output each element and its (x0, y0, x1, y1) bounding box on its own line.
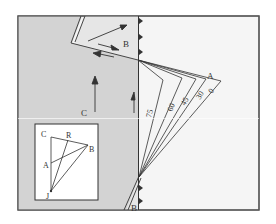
inset-label-r: R (66, 131, 72, 140)
triple-junction-diagram: 75 60 45 30 0 B A C B (0, 0, 276, 224)
plate-label-c: C (81, 108, 87, 118)
inset-label-j: J (46, 192, 49, 201)
plate-label-b-bottom: B (131, 203, 137, 213)
inset-point-j (50, 190, 52, 192)
inset-label-c: C (41, 130, 46, 139)
inset-velocity-triangle: C R B A J (35, 124, 98, 201)
inset-label-b: B (89, 145, 94, 154)
inset-label-a: A (43, 161, 49, 170)
plate-label-b-top: B (123, 39, 129, 49)
plate-label-a: A (207, 71, 214, 81)
